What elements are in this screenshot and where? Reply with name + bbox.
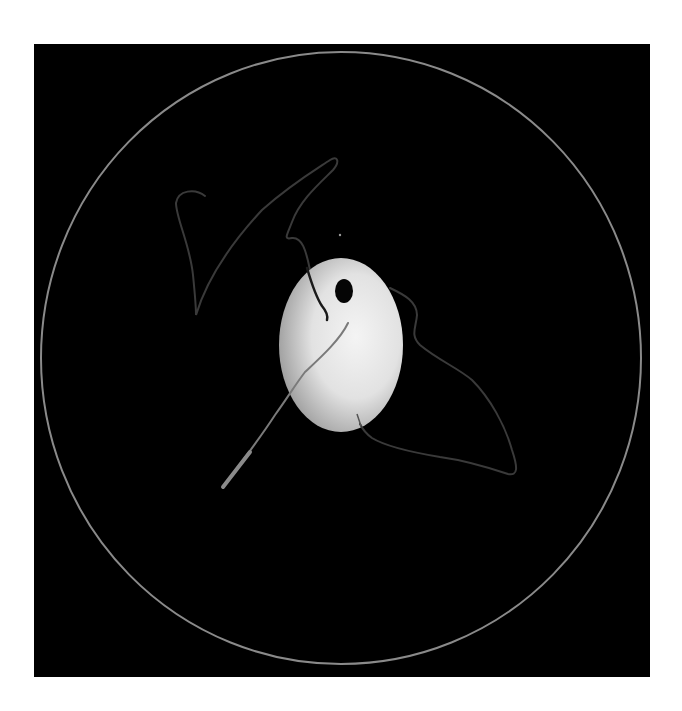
speck-dot — [339, 234, 341, 236]
image-stage — [0, 0, 682, 711]
nucleus-spot — [335, 279, 353, 303]
microscopy-image — [0, 0, 682, 711]
